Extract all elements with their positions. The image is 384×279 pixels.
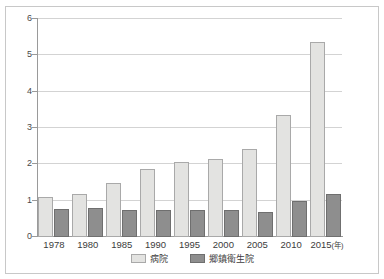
x-tick-label: 1990 bbox=[139, 239, 173, 250]
x-tick-label: 1995 bbox=[173, 239, 207, 250]
x-tick-label: 1985 bbox=[105, 239, 139, 250]
y-tick-label: 4 bbox=[8, 87, 32, 96]
bar-郷鎮衛生院-2005[interactable] bbox=[258, 212, 273, 237]
chart-legend: 病院郷鎮衛生院 bbox=[0, 252, 384, 265]
bar-group bbox=[242, 19, 273, 237]
bar-病院-1990[interactable] bbox=[140, 169, 155, 237]
legend-swatch-icon bbox=[131, 254, 146, 263]
legend-label: 郷鎮衛生院 bbox=[209, 252, 254, 265]
legend-entry-1[interactable]: 病院 bbox=[131, 252, 168, 265]
bar-group bbox=[38, 19, 69, 237]
bar-group bbox=[310, 19, 341, 237]
chart-title bbox=[0, 0, 384, 3]
bar-病院-1995[interactable] bbox=[174, 162, 189, 237]
x-tick-label: 1978 bbox=[37, 239, 71, 250]
bar-郷鎮衛生院-1990[interactable] bbox=[156, 210, 171, 237]
x-tick-label: 2005 bbox=[240, 239, 274, 250]
bar-病院-1985[interactable] bbox=[106, 183, 121, 237]
legend-entry-2[interactable]: 郷鎮衛生院 bbox=[190, 252, 254, 265]
bar-series-container bbox=[37, 18, 343, 237]
x-tick-label: 2000 bbox=[206, 239, 240, 250]
bar-病院-2000[interactable] bbox=[208, 159, 223, 237]
bar-病院-2010[interactable] bbox=[276, 115, 291, 237]
bar-group bbox=[140, 19, 171, 237]
x-tick-label: 2015(年) bbox=[303, 239, 351, 251]
y-tick-label: 3 bbox=[8, 123, 32, 132]
y-tick-label: 2 bbox=[8, 159, 32, 168]
bar-郷鎮衛生院-1978[interactable] bbox=[54, 209, 69, 237]
y-tick-label: 0 bbox=[8, 232, 32, 241]
legend-label: 病院 bbox=[150, 252, 168, 265]
bar-group bbox=[208, 19, 239, 237]
bar-郷鎮衛生院-1985[interactable] bbox=[122, 210, 137, 237]
bar-病院-1980[interactable] bbox=[72, 194, 87, 237]
bar-郷鎮衛生院-2015[interactable] bbox=[326, 194, 341, 237]
bar-group bbox=[72, 19, 103, 237]
chart-figure: 0123456 19781980198519901995200020052010… bbox=[0, 0, 384, 279]
bar-group bbox=[276, 19, 307, 237]
x-tick-label: 1980 bbox=[71, 239, 105, 250]
bar-group bbox=[106, 19, 137, 237]
bar-病院-2015[interactable] bbox=[310, 42, 325, 237]
y-tick-label: 1 bbox=[8, 196, 32, 205]
y-tick-label: 5 bbox=[8, 50, 32, 59]
bar-病院-2005[interactable] bbox=[242, 149, 257, 237]
x-axis-unit-label: (年) bbox=[332, 241, 344, 250]
legend-swatch-icon bbox=[190, 254, 205, 263]
bar-郷鎮衛生院-1995[interactable] bbox=[190, 210, 205, 237]
bar-郷鎮衛生院-2010[interactable] bbox=[292, 201, 307, 237]
bar-郷鎮衛生院-2000[interactable] bbox=[224, 210, 239, 237]
y-tick-label: 6 bbox=[8, 14, 32, 23]
bar-郷鎮衛生院-1980[interactable] bbox=[88, 208, 103, 237]
bar-group bbox=[174, 19, 205, 237]
bar-病院-1978[interactable] bbox=[38, 197, 53, 237]
